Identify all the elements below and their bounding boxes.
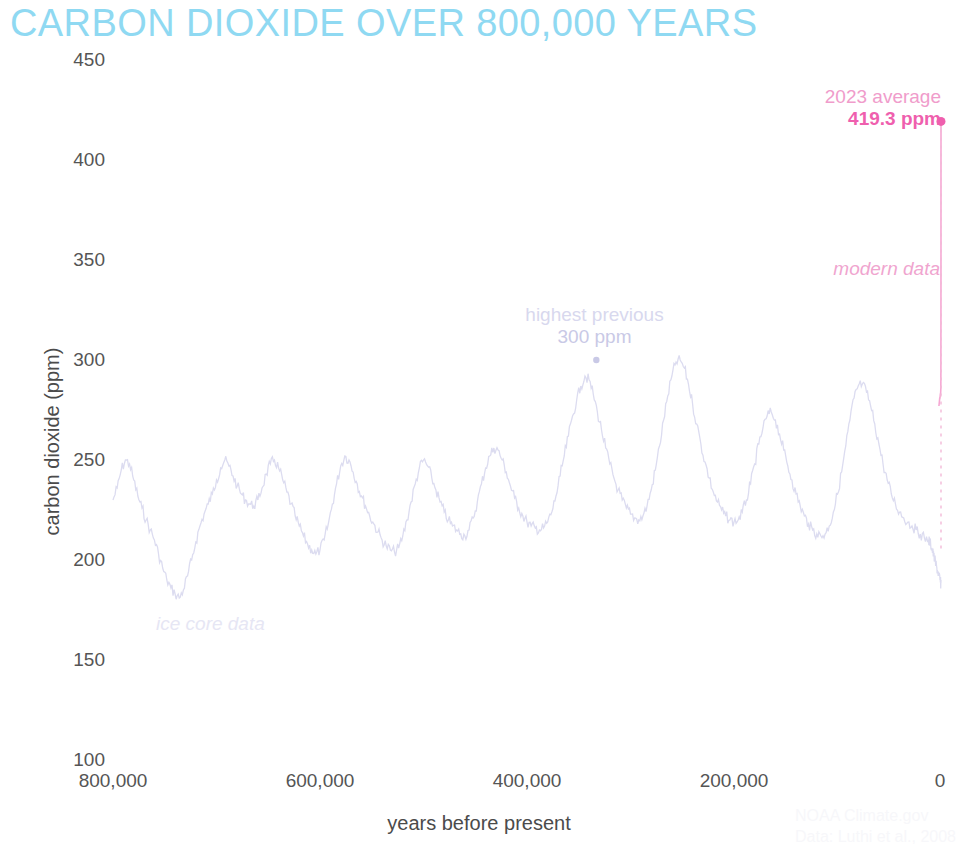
x-tick-label: 600,000 xyxy=(286,770,355,792)
x-tick-label: 0 xyxy=(935,770,946,792)
plot-area xyxy=(113,60,941,760)
y-axis-ticks: 100150200250300350400450 xyxy=(0,0,105,858)
ice-core-data-line xyxy=(113,355,941,599)
x-tick-label: 400,000 xyxy=(493,770,562,792)
y-tick-label: 350 xyxy=(45,249,105,271)
annotation-modern-average-value: 419.3 ppm xyxy=(825,108,941,130)
page-title: CARBON DIOXIDE OVER 800,000 YEARS xyxy=(10,2,757,45)
annotation-ice-core-data: ice core data xyxy=(156,613,265,635)
annotation-modern-average-label: 2023 average xyxy=(825,86,941,108)
annotation-modern-data: modern data xyxy=(833,258,940,280)
credit-source: NOAA Climate.gov xyxy=(795,806,956,827)
y-tick-label: 100 xyxy=(45,749,105,771)
data-series-svg xyxy=(113,60,941,760)
y-tick-label: 250 xyxy=(45,449,105,471)
annotation-highest-previous-label: highest previous xyxy=(512,304,677,326)
credit-block: NOAA Climate.gov Data: Luthi et al., 200… xyxy=(795,806,956,848)
x-tick-label: 200,000 xyxy=(700,770,769,792)
y-tick-label: 450 xyxy=(45,49,105,71)
x-tick-label: 800,000 xyxy=(79,770,148,792)
annotation-modern-average: 2023 average 419.3 ppm xyxy=(825,86,941,131)
credit-data-citation: Data: Luthi et al., 2008 xyxy=(795,827,956,848)
annotation-highest-previous-value: 300 ppm xyxy=(512,326,677,348)
y-tick-label: 400 xyxy=(45,149,105,171)
highest-previous-marker xyxy=(593,357,599,363)
y-tick-label: 200 xyxy=(45,549,105,571)
y-tick-label: 150 xyxy=(45,649,105,671)
co2-chart: CARBON DIOXIDE OVER 800,000 YEARS carbon… xyxy=(0,0,958,858)
y-tick-label: 300 xyxy=(45,349,105,371)
annotation-highest-previous: highest previous 300 ppm xyxy=(512,304,677,349)
